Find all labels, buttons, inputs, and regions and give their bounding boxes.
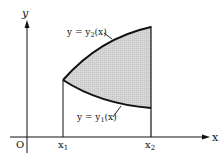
y-axis-arrow-icon xyxy=(25,20,30,28)
lower-curve-label: y = y1(x) xyxy=(76,112,117,124)
x-axis-arrow-icon xyxy=(202,135,210,140)
area-between-curves-diagram: y x O x1 x2 y = y2(x) y = y1(x) xyxy=(0,0,222,162)
y-axis-label: y xyxy=(21,7,29,20)
upper-curve-label: y = y2(x) xyxy=(66,27,107,39)
x2-label: x2 xyxy=(145,139,155,152)
x-axis-label: x xyxy=(212,131,219,144)
origin-label: O xyxy=(16,139,24,150)
x1-label: x1 xyxy=(58,139,68,152)
